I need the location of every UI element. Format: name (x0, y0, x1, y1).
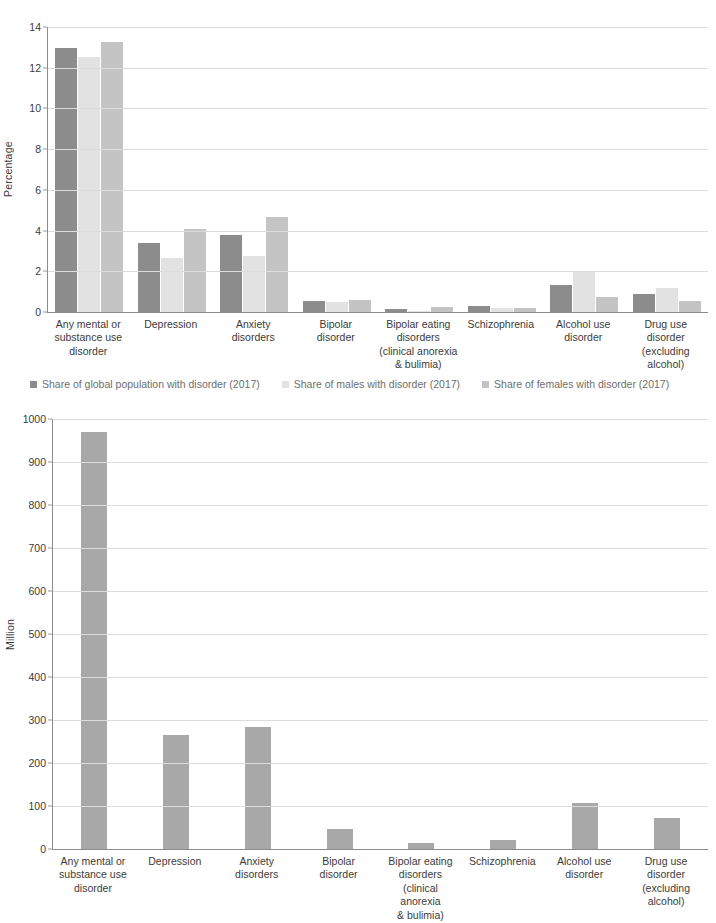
bar (514, 308, 536, 312)
bar (491, 308, 513, 312)
legend-label: Share of males with disorder (2017) (294, 378, 460, 390)
x-tick-label: Depression (130, 314, 213, 372)
bar (138, 243, 160, 312)
legend-swatch-icon (30, 381, 37, 388)
grid-line (48, 68, 708, 69)
x-tick-label: Anxiety disorders (216, 851, 298, 922)
y-tick-label: 14 (29, 21, 41, 33)
bar-group (461, 27, 544, 312)
chart-legend: Share of global population with disorder… (0, 378, 716, 390)
bar-group (48, 27, 131, 312)
grid-line (48, 231, 708, 232)
bar (468, 306, 490, 312)
bar (550, 285, 572, 312)
y-tick-label: 2 (35, 265, 41, 277)
y-tick-label: 600 (28, 585, 46, 597)
bar (55, 48, 77, 312)
bar (163, 735, 189, 849)
x-axis-labels-million: Any mental or substance use disorderDepr… (52, 851, 707, 922)
x-tick-label: Depression (134, 851, 216, 922)
bar (245, 727, 271, 849)
bar (679, 301, 701, 312)
x-tick-label: Alcohol use disorder (542, 314, 625, 372)
grid-line (53, 505, 708, 506)
bar (81, 432, 107, 849)
chart-plot-area-percentage: Percentage 02468101214 Any mental or sub… (0, 27, 716, 382)
grid-line (53, 720, 708, 721)
bar-group (543, 27, 626, 312)
bar (326, 302, 348, 312)
y-axis-ticks-percentage: 02468101214 (1, 27, 47, 312)
grid-line (53, 634, 708, 635)
grid-line (48, 190, 708, 191)
x-tick-label: Drug use disorder (excluding alcohol) (625, 314, 708, 372)
y-tick-label: 700 (28, 542, 46, 554)
y-tick-label: 500 (28, 628, 46, 640)
bar (327, 829, 353, 849)
bar (385, 309, 407, 312)
grid-line (53, 462, 708, 463)
grid-line (48, 149, 708, 150)
grid-line (48, 271, 708, 272)
y-axis-ticks-million: 01002003004005006007008009001000 (6, 419, 52, 849)
y-tick-label: 0 (40, 843, 46, 855)
y-tick-label: 800 (28, 499, 46, 511)
legend-label: Share of global population with disorder… (42, 378, 260, 390)
plot-region-percentage (47, 27, 708, 313)
bar-group (378, 27, 461, 312)
bar-group (296, 27, 379, 312)
bar (633, 294, 655, 312)
bar (572, 803, 598, 849)
y-tick-label: 8 (35, 143, 41, 155)
x-tick-label: Schizophrenia (460, 314, 543, 372)
grid-line (53, 419, 708, 420)
x-tick-label: Drug use disorder (excluding alcohol) (625, 851, 707, 922)
y-tick-label: 1000 (23, 413, 46, 425)
bar (349, 300, 371, 312)
bar (654, 818, 680, 849)
legend-swatch-icon (482, 381, 489, 388)
legend-item[interactable]: Share of males with disorder (2017) (282, 378, 460, 390)
chart-plot-area-million: Million 01002003004005006007008009001000… (0, 419, 716, 923)
bar (573, 272, 595, 312)
plot-region-million (52, 419, 708, 850)
x-axis-labels-percentage: Any mental or substance use disorderDepr… (47, 314, 707, 372)
grid-line (53, 548, 708, 549)
y-tick-label: 6 (35, 184, 41, 196)
bar (596, 297, 618, 312)
legend-item[interactable]: Share of females with disorder (2017) (482, 378, 669, 390)
y-tick-label: 900 (28, 456, 46, 468)
x-tick-label: Schizophrenia (461, 851, 543, 922)
bar (408, 311, 430, 312)
y-tick-label: 4 (35, 225, 41, 237)
x-tick-label: Any mental or substance use disorder (47, 314, 130, 372)
bar (431, 307, 453, 312)
legend-swatch-icon (282, 381, 289, 388)
bar (490, 840, 516, 849)
grid-line (48, 108, 708, 109)
y-tick-label: 12 (29, 62, 41, 74)
x-tick-label: Bipolar disorder (295, 314, 378, 372)
x-tick-label: Anxiety disorders (212, 314, 295, 372)
bar-series-group-percentage (48, 27, 708, 312)
grid-line (53, 806, 708, 807)
x-tick-label: Bipolar disorder (298, 851, 380, 922)
bar (408, 843, 434, 849)
y-tick-label: 10 (29, 102, 41, 114)
legend-item[interactable]: Share of global population with disorder… (30, 378, 260, 390)
y-tick-label: 0 (35, 306, 41, 318)
grid-line (53, 763, 708, 764)
bar (243, 256, 265, 312)
bar (78, 57, 100, 312)
bar-group (131, 27, 214, 312)
grid-line (53, 677, 708, 678)
grid-line (53, 591, 708, 592)
bar (656, 288, 678, 312)
x-tick-label: Alcohol use disorder (543, 851, 625, 922)
x-tick-label: Any mental or substance use disorder (52, 851, 134, 922)
legend-label: Share of females with disorder (2017) (494, 378, 669, 390)
bar (303, 301, 325, 312)
x-tick-label: Bipolar eating disorders (clinical anore… (380, 851, 462, 922)
y-tick-label: 300 (28, 714, 46, 726)
y-tick-label: 100 (28, 800, 46, 812)
